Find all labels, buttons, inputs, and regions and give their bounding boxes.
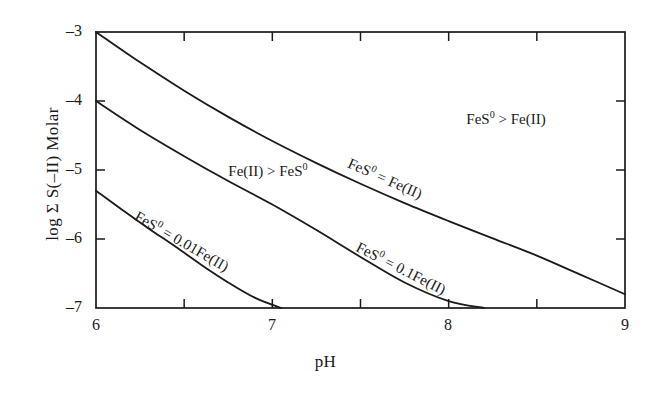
xtick-label-6: 6	[79, 316, 113, 334]
ytick-label-minus7: –7	[48, 298, 82, 316]
chart-figure: –3 –4 –5 –6 –7 6 7 8 9 log Σ S(–II) Mola…	[0, 0, 651, 394]
xtick-label-8: 8	[431, 316, 465, 334]
y-axis-title: log Σ S(–II) Molar	[43, 59, 63, 289]
xtick-label-9: 9	[608, 316, 642, 334]
plot-canvas	[0, 0, 651, 394]
annotation-region-fes-greater: FeS0 > Fe(II)	[466, 111, 545, 128]
x-axis-title: pH	[0, 352, 651, 372]
xtick-label-7: 7	[255, 316, 289, 334]
ytick-label-minus3: –3	[48, 22, 82, 40]
annotation-region-fe-greater: Fe(II) > FeS0	[228, 163, 307, 180]
